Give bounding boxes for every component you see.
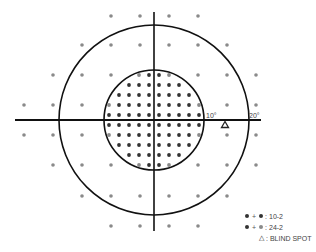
test-point-24-2 — [138, 194, 142, 198]
test-point-10-2 — [167, 103, 171, 107]
test-point-10-2 — [157, 93, 161, 97]
test-point-10-2 — [147, 103, 151, 107]
test-point-24-2 — [225, 133, 229, 137]
test-point-24-2 — [80, 163, 84, 167]
test-point-10-2 — [187, 103, 191, 107]
test-point-10-2 — [127, 103, 131, 107]
test-point-10-2 — [147, 133, 151, 137]
test-point-24-2 — [225, 43, 229, 47]
test-point-10-2 — [147, 153, 151, 157]
test-point-10-2 — [137, 133, 141, 137]
test-point-24-2 — [138, 14, 142, 18]
test-point-10-2 — [127, 113, 131, 117]
test-point-10-2 — [157, 163, 161, 167]
test-point-10-2 — [157, 123, 161, 127]
test-point-10-2 — [137, 113, 141, 117]
test-point-24-2 — [138, 43, 142, 47]
test-point-24-2 — [196, 224, 200, 228]
test-point-10-2 — [157, 83, 161, 87]
test-point-10-2 — [137, 83, 141, 87]
test-point-10-2 — [177, 83, 181, 87]
test-point-10-2 — [147, 163, 151, 167]
blind-spot-marker — [222, 122, 229, 128]
test-point-10-2 — [167, 123, 171, 127]
test-point-10-2 — [167, 153, 171, 157]
triangle-icon: △ — [259, 234, 264, 242]
test-point-10-2 — [107, 123, 111, 127]
test-point-10-2 — [117, 143, 121, 147]
test-point-10-2 — [157, 103, 161, 107]
test-point-10-2 — [187, 133, 191, 137]
test-point-24-2 — [109, 43, 113, 47]
test-point-10-2 — [127, 83, 131, 87]
test-point-10-2 — [187, 123, 191, 127]
test-point-10-2 — [157, 133, 161, 137]
dark-dot-icon — [245, 214, 249, 218]
test-point-24-2 — [80, 194, 84, 198]
legend-item-24-2: + : 24-2 — [245, 222, 283, 232]
legend-label: : BLIND SPOT — [266, 235, 312, 242]
test-point-24-2 — [254, 133, 258, 137]
legend-item-blind-spot: △ : BLIND SPOT — [259, 233, 312, 243]
test-point-10-2 — [117, 123, 121, 127]
degree-labels: 10° 20° — [206, 112, 260, 119]
test-point-shared — [137, 163, 141, 167]
test-point-24-2 — [254, 163, 258, 167]
test-point-10-2 — [147, 113, 151, 117]
test-point-shared — [137, 73, 141, 77]
test-point-24-2 — [254, 73, 258, 77]
test-point-10-2 — [177, 123, 181, 127]
test-point-10-2 — [117, 133, 121, 137]
test-point-10-2 — [157, 143, 161, 147]
blind-spot-triangle-icon — [222, 122, 229, 128]
test-point-24-2 — [196, 43, 200, 47]
test-point-10-2 — [157, 73, 161, 77]
test-point-10-2 — [117, 103, 121, 107]
test-point-24-2 — [109, 224, 113, 228]
test-point-10-2 — [197, 113, 201, 117]
plus-sign: + — [252, 224, 256, 231]
test-point-10-2 — [177, 133, 181, 137]
test-point-10-2 — [137, 123, 141, 127]
test-point-24-2 — [22, 103, 26, 107]
test-point-10-2 — [167, 143, 171, 147]
test-point-24-2 — [22, 133, 26, 137]
test-point-10-2 — [167, 113, 171, 117]
test-point-10-2 — [107, 113, 111, 117]
test-point-24-2 — [196, 163, 200, 167]
test-point-24-2 — [196, 14, 200, 18]
test-point-24-2 — [225, 194, 229, 198]
test-point-10-2 — [117, 93, 121, 97]
legend-label: : 24-2 — [265, 224, 283, 231]
test-point-10-2 — [127, 93, 131, 97]
test-point-24-2 — [109, 163, 113, 167]
test-point-10-2 — [177, 143, 181, 147]
test-point-24-2 — [80, 73, 84, 77]
test-point-24-2 — [196, 73, 200, 77]
test-point-24-2 — [196, 194, 200, 198]
test-point-10-2 — [147, 93, 151, 97]
test-point-10-2 — [177, 113, 181, 117]
test-point-24-2 — [80, 43, 84, 47]
test-point-24-2 — [225, 103, 229, 107]
test-point-shared — [107, 103, 111, 107]
label-20-degrees: 20° — [249, 112, 260, 119]
test-point-10-2 — [127, 123, 131, 127]
legend-item-10-2: + : 10-2 — [245, 211, 283, 221]
test-point-24-2 — [167, 194, 171, 198]
gray-dot-icon — [259, 225, 263, 229]
test-point-10-2 — [177, 153, 181, 157]
test-point-10-2 — [167, 93, 171, 97]
test-point-24-2 — [80, 103, 84, 107]
test-point-10-2 — [147, 123, 151, 127]
test-point-10-2 — [177, 103, 181, 107]
test-point-24-2 — [80, 133, 84, 137]
test-point-24-2 — [167, 224, 171, 228]
test-point-10-2 — [137, 143, 141, 147]
test-point-10-2 — [147, 73, 151, 77]
test-point-10-2 — [137, 153, 141, 157]
test-point-shared — [107, 133, 111, 137]
test-point-24-2 — [138, 224, 142, 228]
test-point-24-2 — [167, 43, 171, 47]
test-point-24-2 — [51, 163, 55, 167]
